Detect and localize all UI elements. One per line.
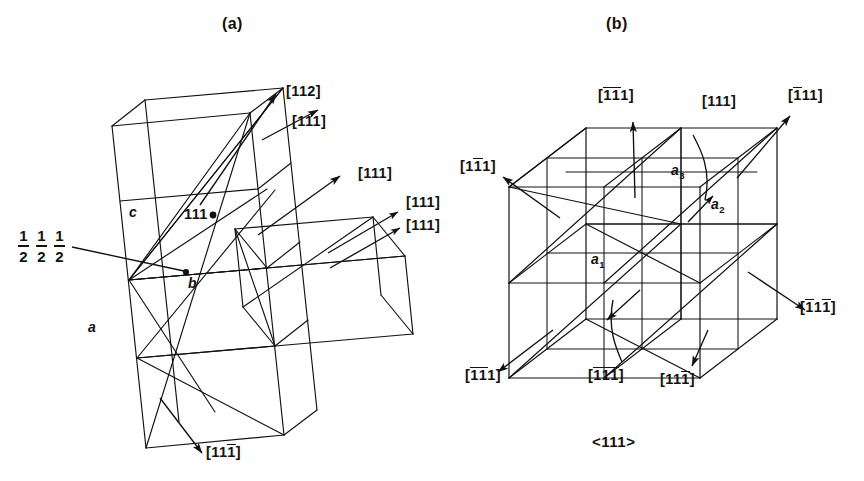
panel-label-b: (b): [606, 16, 628, 32]
arrow-112: [200, 94, 276, 205]
axis-label-a3: a3: [671, 163, 685, 180]
dir-label-b-111-top: [111]: [702, 94, 736, 109]
axis-label-a1: a1: [591, 252, 605, 269]
dir-label-111-right-lower: [111]: [406, 218, 440, 233]
leader-half-point: [72, 247, 184, 271]
dir-label-111-top: [111]: [292, 114, 326, 129]
lattice-point-111: [210, 212, 217, 219]
arrow-b-11bar1: [503, 177, 560, 218]
dir-label-b-1bar1bar1bar: [111]: [588, 368, 624, 383]
dir-label-111-right-upper: [111]: [406, 195, 440, 210]
panel-a-upper-cell: [112, 88, 317, 448]
panel-a-direction-arrows: [72, 94, 400, 453]
fraction-label-half-half-half: 12 12 12: [18, 228, 65, 264]
axis-label-c: c: [129, 205, 137, 219]
figure-caption: <111>: [592, 434, 635, 449]
dir-label-b-1bar11: [111]: [788, 88, 823, 103]
dir-label-111-mid: [111]: [358, 166, 392, 181]
dir-label-112: [112]: [286, 84, 321, 99]
arrow-b-1bar11: [737, 116, 790, 178]
fraction-half-1: 12: [18, 228, 29, 264]
panel-label-a: (a): [222, 16, 243, 32]
fraction-half-3: 12: [54, 228, 65, 264]
dir-label-11-1bar: [111]: [206, 445, 241, 460]
fraction-half-2: 12: [36, 228, 47, 264]
dir-label-b-11bar1: [111]: [460, 159, 496, 174]
axis-label-b: b: [188, 276, 197, 290]
arrow-111-right-lower: [330, 228, 400, 268]
arrow-111-mid: [258, 176, 340, 235]
figure-root: (a) (b) [112] [111] [111] [111] [111] [1…: [0, 0, 864, 481]
dir-label-b-1bar1bar1-bottom: [111]: [465, 368, 501, 383]
dir-label-b-1bar1bar1-top: [111]: [598, 88, 634, 103]
dir-label-b-1bar11bar: [111]: [800, 300, 836, 315]
leader-b-1bar1bar1bar: [611, 300, 622, 362]
dir-label-b-111bar: [111]: [660, 372, 695, 387]
axis-label-a: a: [88, 320, 96, 334]
panel-a-geometry: [0, 0, 864, 481]
point-label-111: 111: [184, 207, 208, 222]
axis-label-a2: a2: [711, 197, 725, 214]
